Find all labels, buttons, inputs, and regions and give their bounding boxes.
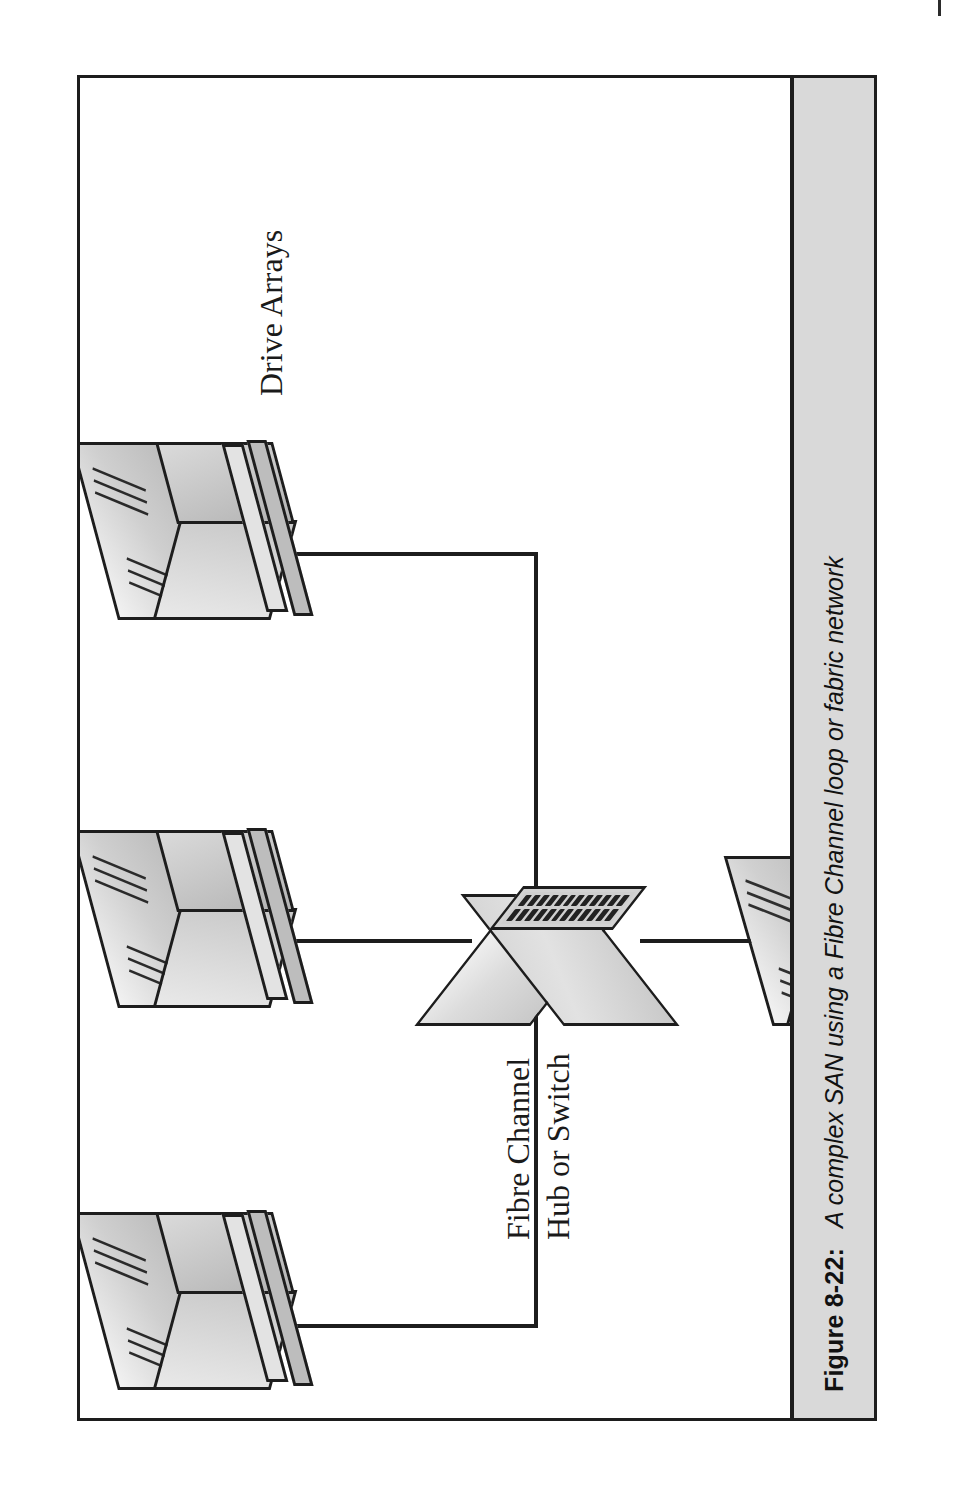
- drive-array-3[interactable]: [94, 428, 306, 634]
- page-edge-mark: [938, 0, 941, 16]
- drive-array-2[interactable]: [94, 816, 306, 1022]
- figure-frame: Drive Arrays Fibre Channel: [77, 75, 877, 1421]
- wire-drivearray1-drop: [276, 1324, 538, 1328]
- switch-port-array: [500, 892, 635, 924]
- fibre-channel-switch[interactable]: [466, 850, 656, 1034]
- page-canvas: Drive Arrays Fibre Channel: [0, 0, 954, 1496]
- figure-caption-band: Figure 8-22: A complex SAN using a Fibre…: [790, 78, 874, 1418]
- label-fibre-channel: Fibre Channel Hub or Switch: [498, 1053, 578, 1240]
- switch-port-face: [489, 886, 647, 930]
- figure-artwork: Drive Arrays Fibre Channel: [80, 78, 790, 1418]
- server[interactable]: [748, 848, 790, 1036]
- figure-caption-text: A complex SAN using a Fibre Channel loop…: [820, 556, 849, 1228]
- label-drive-arrays: Drive Arrays: [252, 230, 290, 396]
- drive-array-1[interactable]: [94, 1198, 306, 1404]
- wire-drivearray3-run: [534, 552, 538, 858]
- label-fibre-channel-line2: Hub or Switch: [538, 1053, 578, 1240]
- figure-rotated-container: Drive Arrays Fibre Channel: [77, 75, 877, 1421]
- figure-number: Figure 8-22:: [820, 1248, 849, 1392]
- label-fibre-channel-line1: Fibre Channel: [498, 1053, 538, 1240]
- wire-drivearray3-drop: [276, 552, 538, 556]
